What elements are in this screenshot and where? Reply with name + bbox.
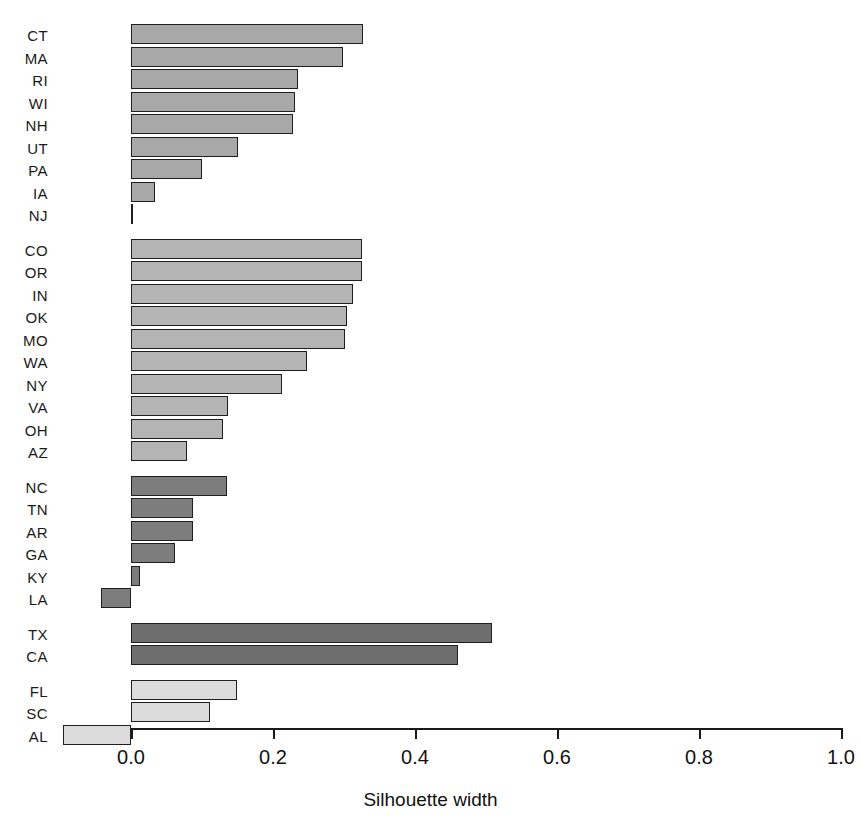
- bar-la: [101, 588, 131, 608]
- row-label-fl: FL: [0, 683, 48, 700]
- bar-az: [131, 441, 187, 461]
- row-label-ny: NY: [0, 377, 48, 394]
- x-tick-label-0.8: 0.8: [649, 746, 749, 769]
- row-label-ca: CA: [0, 648, 48, 665]
- bar-tn: [131, 498, 193, 518]
- row-label-oh: OH: [0, 422, 48, 439]
- row-label-in: IN: [0, 287, 48, 304]
- bar-ny: [131, 374, 282, 394]
- row-label-ma: MA: [0, 50, 48, 67]
- row-label-nj: NJ: [0, 207, 48, 224]
- x-tick-mark-0.6: [557, 728, 559, 739]
- bar-ca: [131, 645, 458, 665]
- bar-fl: [131, 680, 237, 700]
- row-label-mo: MO: [0, 332, 48, 349]
- bar-ar: [131, 521, 193, 541]
- x-tick-label-0.2: 0.2: [223, 746, 323, 769]
- bar-wa: [131, 351, 307, 371]
- x-tick-mark-0.4: [415, 728, 417, 739]
- row-label-pa: PA: [0, 162, 48, 179]
- bar-va: [131, 396, 228, 416]
- x-axis-title: Silhouette width: [0, 789, 861, 811]
- bar-nh: [131, 114, 293, 134]
- bar-pa: [131, 159, 202, 179]
- bar-nc: [131, 476, 227, 496]
- x-tick-label-0.6: 0.6: [507, 746, 607, 769]
- row-label-ct: CT: [0, 27, 48, 44]
- bar-in: [131, 284, 353, 304]
- row-label-ok: OK: [0, 309, 48, 326]
- bar-ok: [131, 306, 347, 326]
- bar-tx: [131, 623, 492, 643]
- x-tick-label-1.0: 1.0: [791, 746, 861, 769]
- bar-ct: [131, 24, 363, 44]
- row-label-ri: RI: [0, 72, 48, 89]
- row-label-al: AL: [0, 728, 48, 745]
- row-label-la: LA: [0, 591, 48, 608]
- bar-wi: [131, 92, 295, 112]
- x-tick-label-0.0: 0.0: [81, 746, 181, 769]
- bar-al: [63, 725, 131, 745]
- row-label-va: VA: [0, 399, 48, 416]
- row-label-ar: AR: [0, 524, 48, 541]
- row-label-or: OR: [0, 264, 48, 281]
- bar-ia: [131, 182, 155, 202]
- row-label-nc: NC: [0, 479, 48, 496]
- row-label-tx: TX: [0, 626, 48, 643]
- row-label-ut: UT: [0, 140, 48, 157]
- x-tick-mark-0.8: [699, 728, 701, 739]
- bar-oh: [131, 419, 223, 439]
- row-label-sc: SC: [0, 705, 48, 722]
- x-tick-mark-0.2: [273, 728, 275, 739]
- bar-co: [131, 239, 362, 259]
- x-tick-label-0.4: 0.4: [365, 746, 465, 769]
- bar-mo: [131, 329, 345, 349]
- row-label-co: CO: [0, 242, 48, 259]
- row-label-ky: KY: [0, 569, 48, 586]
- bar-ga: [131, 543, 175, 563]
- bar-nj: [131, 204, 133, 224]
- row-label-ia: IA: [0, 185, 48, 202]
- row-label-tn: TN: [0, 501, 48, 518]
- bar-ma: [131, 47, 343, 67]
- row-label-wa: WA: [0, 354, 48, 371]
- bar-or: [131, 261, 362, 281]
- bar-ky: [131, 566, 140, 586]
- silhouette-plot: CTMARIWINHUTPAIANJCOORINOKMOWANYVAOHAZNC…: [0, 0, 861, 823]
- bar-ri: [131, 69, 298, 89]
- x-axis-line: [131, 728, 841, 730]
- bar-ut: [131, 137, 238, 157]
- x-tick-mark-1.0: [841, 728, 843, 739]
- bar-sc: [131, 702, 210, 722]
- row-label-ga: GA: [0, 546, 48, 563]
- x-tick-mark-0.0: [131, 728, 133, 739]
- row-label-wi: WI: [0, 95, 48, 112]
- row-label-nh: NH: [0, 117, 48, 134]
- row-label-az: AZ: [0, 444, 48, 461]
